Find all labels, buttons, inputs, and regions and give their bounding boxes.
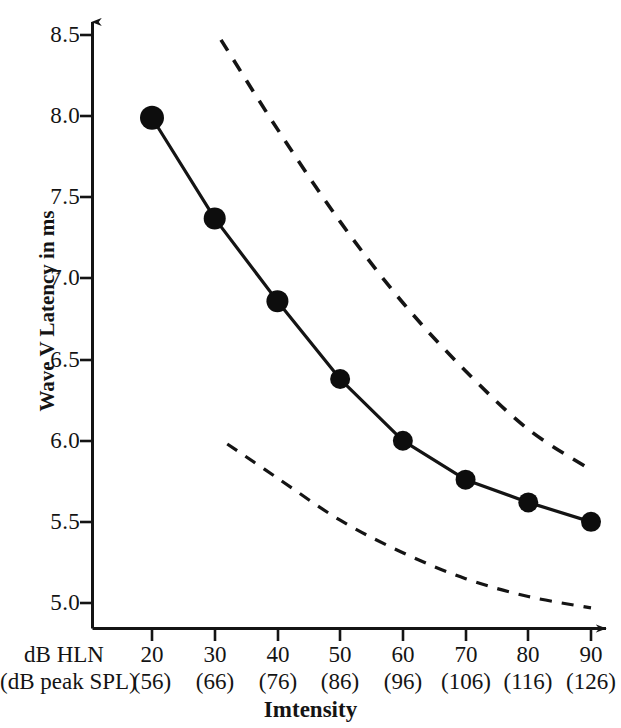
y-tick-5.5: 5.5 [22,510,80,533]
y-tick-8.5: 8.5 [22,23,80,46]
data-point-marker [581,512,601,532]
x-tick-label-hl: 50 [304,641,376,668]
x-tick-label-hl: 90 [555,641,621,668]
data-point-marker [330,369,350,389]
lower-normal-limit-curve [227,444,591,608]
y-tick-label: 8.0 [26,104,80,127]
upper-normal-limit-curve [221,40,591,470]
x-tick-label-spl: (86) [304,668,376,696]
x-tick-col-20: 20 (56) [116,641,188,696]
mean-latency-line [152,118,591,522]
x-tick-col-90: 90 (126) [555,641,621,696]
y-axis-title: Wave V Latency in ms [36,181,58,441]
y-tick-label: 8.5 [26,23,80,46]
x-tick-col-30: 30 (66) [179,641,251,696]
y-tick-label: 5.0 [26,591,80,614]
chart-plot-area [0,0,621,728]
x-axis-row-caption-db-hln: dB HLN [8,641,120,668]
data-point-marker [518,492,538,512]
x-tick-label-spl: (116) [492,668,564,696]
x-tick-label-hl: 30 [179,641,251,668]
x-tick-col-50: 50 (86) [304,641,376,696]
data-point-marker [393,431,413,451]
data-point-marker [456,470,476,490]
data-point-marker [266,290,288,312]
x-tick-label-spl: (66) [179,668,251,696]
x-tick-col-80: 80 (116) [492,641,564,696]
y-tick-8.0: 8.0 [22,104,80,127]
x-tick-label-hl: 20 [116,641,188,668]
x-tick-col-60: 60 (96) [367,641,439,696]
x-tick-label-spl: (56) [116,668,188,696]
x-tick-label-spl: (96) [367,668,439,696]
y-axis-ticks [80,35,93,603]
x-axis-row-caption-db-peak-spl: (dB peak SPL) [0,668,128,696]
mean-latency-markers [140,106,601,532]
x-tick-label-spl: (126) [555,668,621,696]
data-point-marker [140,106,164,130]
x-axis-ticks [152,629,591,642]
x-tick-label-hl: 60 [367,641,439,668]
data-point-marker [204,207,226,229]
y-tick-5.0: 5.0 [22,591,80,614]
x-axis-title: Imtensity [0,697,621,723]
chart-figure: 8.5 8.0 7.5 7.0 6.5 6.0 5.5 5.0 Wave V L… [0,0,621,728]
y-tick-label: 5.5 [26,510,80,533]
x-tick-label-hl: 80 [492,641,564,668]
